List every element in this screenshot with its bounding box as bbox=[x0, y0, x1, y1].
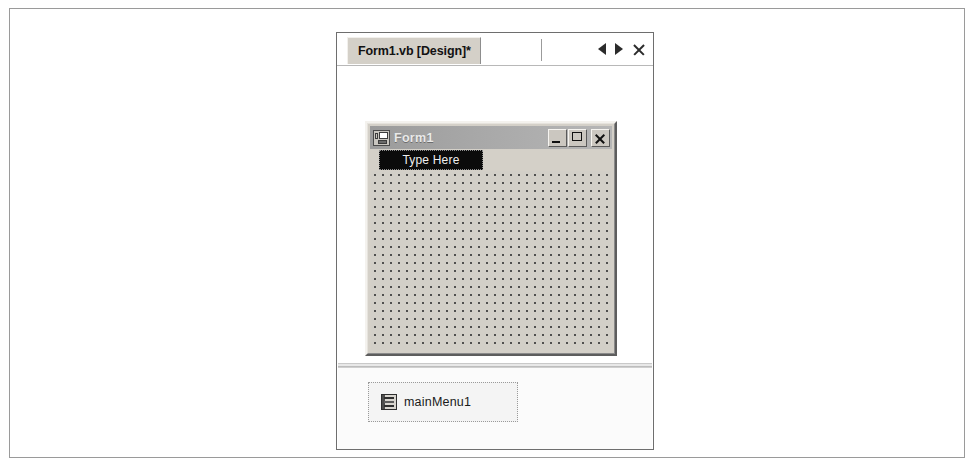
component-tray[interactable]: mainMenu1 bbox=[338, 367, 652, 449]
form-window-buttons bbox=[548, 129, 610, 147]
menu-type-here-item[interactable]: Type Here bbox=[379, 150, 483, 170]
close-x-icon[interactable] bbox=[632, 43, 645, 56]
triangle-right-icon[interactable] bbox=[615, 43, 623, 55]
tray-item-label: mainMenu1 bbox=[404, 395, 471, 409]
page-frame: Form1.vb [Design]* bbox=[9, 8, 965, 458]
tab-form1-design[interactable]: Form1.vb [Design]* bbox=[347, 37, 481, 64]
tab-divider bbox=[541, 39, 542, 61]
form-menu-strip: Type Here bbox=[371, 150, 611, 170]
menu-type-here-label: Type Here bbox=[402, 153, 459, 167]
main-menu-icon bbox=[381, 394, 397, 410]
tab-label: Form1.vb [Design]* bbox=[358, 44, 471, 58]
designed-form[interactable]: Form1 bbox=[365, 121, 617, 356]
tab-strip: Form1.vb [Design]* bbox=[337, 33, 653, 66]
form-titlebar[interactable]: Form1 bbox=[370, 126, 612, 149]
form-window-icon bbox=[373, 130, 390, 146]
form-client-grid[interactable] bbox=[371, 171, 611, 350]
maximize-icon[interactable] bbox=[568, 129, 587, 147]
minimize-icon[interactable] bbox=[548, 129, 567, 147]
tab-navigation bbox=[598, 39, 645, 59]
design-surface[interactable]: Form1 bbox=[338, 66, 652, 363]
close-icon[interactable] bbox=[591, 129, 610, 147]
tray-item-mainmenu1[interactable]: mainMenu1 bbox=[368, 382, 518, 422]
form-title: Form1 bbox=[394, 131, 548, 145]
form-designer-window: Form1.vb [Design]* bbox=[336, 32, 654, 450]
form-inner-border: Form1 bbox=[367, 123, 615, 354]
triangle-left-icon[interactable] bbox=[598, 43, 606, 55]
